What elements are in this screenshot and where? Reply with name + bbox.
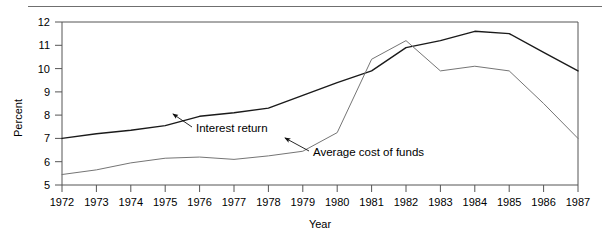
plot-frame (62, 22, 578, 185)
series-line-interest-return (62, 31, 578, 138)
x-tick-label: 1982 (394, 196, 418, 208)
y-axis-tick-labels: 12 11 10 9 8 7 6 5 (38, 16, 50, 191)
x-tick-label: 1978 (256, 196, 280, 208)
y-tick-label: 6 (44, 156, 50, 168)
y-tick-label: 12 (38, 16, 50, 28)
y-tick-label: 10 (38, 63, 50, 75)
x-tick-label: 1977 (222, 196, 246, 208)
x-axis-ticks (62, 185, 578, 192)
line-chart-canvas: 12 11 10 9 8 7 6 5 Percent 1972197319741… (0, 0, 610, 246)
y-tick-label: 9 (44, 86, 50, 98)
annotation-label: Average cost of funds (313, 146, 424, 158)
y-axis-ticks (55, 22, 62, 185)
x-tick-label: 1973 (84, 196, 108, 208)
annotation-label: Interest return (196, 122, 268, 134)
annotation-arrow-icon (173, 114, 192, 127)
y-axis-title: Percent (12, 99, 24, 137)
x-tick-label: 1981 (359, 196, 383, 208)
x-tick-label: 1972 (50, 196, 74, 208)
y-tick-label: 5 (44, 179, 50, 191)
x-axis-title: Year (309, 218, 332, 230)
y-tick-label: 8 (44, 109, 50, 121)
y-tick-label: 7 (44, 132, 50, 144)
x-tick-label: 1979 (291, 196, 315, 208)
x-tick-label: 1986 (531, 196, 555, 208)
x-tick-label: 1983 (428, 196, 452, 208)
x-tick-label: 1987 (566, 196, 590, 208)
x-tick-label: 1984 (463, 196, 487, 208)
chart-figure: 12 11 10 9 8 7 6 5 Percent 1972197319741… (0, 0, 610, 246)
x-axis-tick-labels: 1972197319741975197619771978197919801981… (50, 196, 590, 208)
x-tick-label: 1976 (187, 196, 211, 208)
x-tick-label: 1974 (119, 196, 143, 208)
x-tick-label: 1975 (153, 196, 177, 208)
annotation-arrow-icon (285, 138, 309, 151)
x-tick-label: 1985 (497, 196, 521, 208)
y-tick-label: 11 (39, 39, 50, 51)
x-tick-label: 1980 (325, 196, 349, 208)
